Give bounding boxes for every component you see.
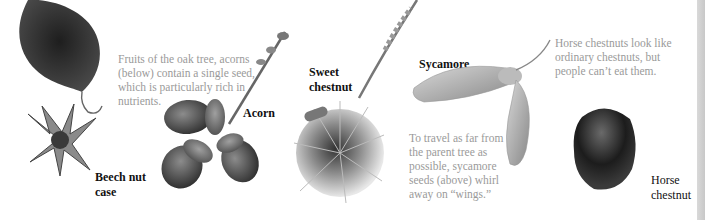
- beech-label: Beech nut case: [95, 170, 146, 200]
- caption-line: ordinary chestnuts, but: [555, 50, 672, 64]
- acorn-label: Acorn: [243, 106, 275, 121]
- horse-chestnut-caption: Horse chestnuts look like ordinary chest…: [555, 36, 672, 78]
- nature-book-page: Beech nut case Fruits of the oak tree, a…: [0, 0, 705, 220]
- caption-line: people can’t eat them.: [555, 64, 672, 78]
- beech-nut-case-image: [20, 100, 100, 180]
- horse-chestnut-label-line1: Horse: [651, 173, 691, 188]
- caption-line: possible, sycamore: [409, 159, 503, 173]
- sweet-chestnut-label-line2: chestnut: [309, 80, 352, 95]
- horse-chestnut-image: [570, 103, 640, 193]
- beech-label-line2: case: [95, 185, 146, 200]
- horse-chestnut-label-line2: chestnut: [651, 188, 691, 203]
- sweet-chestnut-burr-image: [290, 95, 390, 205]
- caption-line: the parent tree as: [409, 145, 503, 159]
- caption-line: To travel as far from: [409, 131, 503, 145]
- caption-line: away on “wings.”: [409, 187, 503, 201]
- caption-line: Horse chestnuts look like: [555, 36, 672, 50]
- horse-chestnut-label: Horse chestnut: [651, 173, 691, 203]
- caption-line: seeds (above) whirl: [409, 173, 503, 187]
- sweet-chestnut-label-line1: Sweet: [309, 65, 352, 80]
- page-edge-strip: [697, 0, 705, 220]
- acorn-label-line1: Acorn: [243, 106, 275, 121]
- sycamore-caption: To travel as far from the parent tree as…: [409, 131, 503, 201]
- sweet-chestnut-label: Sweet chestnut: [309, 65, 352, 95]
- beech-label-line1: Beech nut: [95, 170, 146, 185]
